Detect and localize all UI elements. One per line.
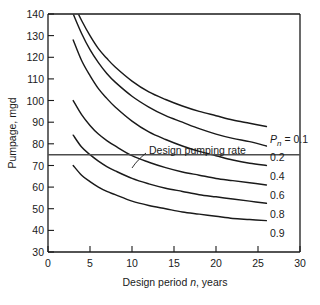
- curve-label-pn-0.4: 0.4: [270, 170, 285, 182]
- x-tick-label-30: 30: [294, 257, 306, 269]
- curve-pn-0.1: [73, 3, 266, 126]
- design-pumping-rate-label: Design pumping rate: [149, 144, 246, 156]
- y-tick-label-130: 130: [26, 30, 44, 42]
- x-axis-ticks: [48, 246, 300, 252]
- curve-label-pn-0.6: 0.6: [270, 189, 285, 201]
- y-tick-label-70: 70: [32, 160, 44, 172]
- y-tick-label-80: 80: [32, 138, 44, 150]
- y-tick-label-40: 40: [32, 224, 44, 236]
- x-tick-label-25: 25: [252, 257, 264, 269]
- y-tick-label-140: 140: [26, 8, 44, 20]
- y-axis-ticks: [48, 14, 54, 252]
- curve-label-pn-0.8: 0.8: [270, 208, 285, 220]
- pumpage-design-period-chart: 140 130 120 110 100 90 80 70 60 50 40 30…: [0, 0, 320, 305]
- y-tick-label-110: 110: [27, 73, 44, 85]
- x-tick-label-5: 5: [87, 257, 93, 269]
- curve-label-pn-0.2: 0.2: [270, 151, 285, 163]
- y-axis-tick-labels: 140 130 120 110 100 90 80 70 60 50 40 30: [26, 8, 44, 258]
- y-tick-label-60: 60: [32, 181, 44, 193]
- curve-pn-0.6: [73, 101, 266, 185]
- x-tick-label-15: 15: [168, 257, 180, 269]
- curve-labels: Pn = 0.1 0.2 0.4 0.6 0.8 0.9: [270, 133, 308, 239]
- x-tick-label-10: 10: [126, 257, 138, 269]
- axes-frame: [48, 14, 300, 252]
- x-axis-tick-labels: 0 5 10 15 20 25 30: [45, 257, 306, 269]
- curve-pn-0.9: [73, 165, 266, 220]
- curve-label-pn-0.1: Pn = 0.1: [270, 133, 308, 148]
- y-tick-label-30: 30: [32, 246, 44, 258]
- y-tick-label-120: 120: [26, 51, 44, 63]
- curve-label-pn-0.9: 0.9: [270, 227, 285, 239]
- y-axis-title: Pumpage, mgd: [6, 97, 18, 168]
- y-tick-label-90: 90: [32, 116, 44, 128]
- y-tick-label-50: 50: [32, 203, 44, 215]
- curve-group: [73, 3, 266, 220]
- x-tick-label-0: 0: [45, 257, 51, 269]
- y-tick-label-100: 100: [26, 95, 44, 107]
- x-axis-title: Design period n, years: [122, 276, 227, 288]
- x-tick-label-20: 20: [210, 257, 222, 269]
- chart-figure: 140 130 120 110 100 90 80 70 60 50 40 30…: [0, 0, 320, 305]
- curve-pn-0.2: [73, 14, 266, 146]
